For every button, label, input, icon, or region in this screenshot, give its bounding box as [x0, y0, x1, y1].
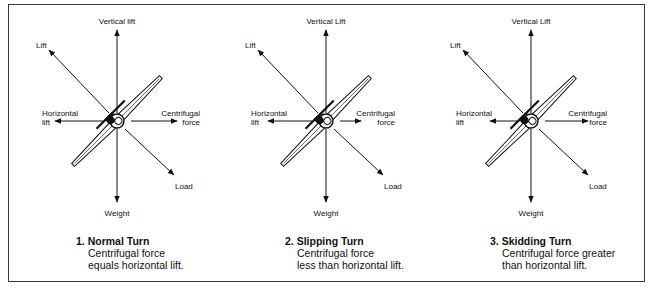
lift-arrow — [49, 50, 109, 113]
turn-forces-diagram: Vertical liftLiftHorizontalliftCentrifug… — [0, 0, 653, 292]
airplane-icon — [275, 70, 375, 170]
caption-line-1: Centrifugal force greater — [502, 247, 616, 259]
caption-line-2: than horizontal lift. — [502, 259, 587, 271]
panel-slipping: Vertical LiftLiftHorizontalliftCentrifug… — [245, 17, 404, 271]
horizontal-lift-label-line2: lift — [42, 118, 51, 127]
load-arrow — [539, 129, 588, 175]
lift-label: Lift — [36, 41, 47, 50]
panel-normal: Vertical liftLiftHorizontalliftCentrifug… — [36, 17, 201, 271]
vertical-lift-label: Vertical Lift — [306, 17, 346, 26]
caption-line-1: Centrifugal force — [88, 247, 165, 259]
load-label: Load — [175, 182, 193, 191]
lift-label: Lift — [245, 41, 256, 50]
load-label: Load — [589, 182, 607, 191]
caption-title: 3. Skidding Turn — [490, 235, 572, 247]
weight-label: Weight — [314, 209, 340, 218]
weight-label: Weight — [519, 209, 545, 218]
centrifugal-force-label-line2: force — [377, 118, 395, 127]
load-label: Load — [384, 182, 402, 191]
lift-label: Lift — [450, 41, 461, 50]
centrifugal-force-label-line2: force — [182, 118, 200, 127]
vertical-lift-label: Vertical lift — [99, 17, 136, 26]
caption-title: 1. Normal Turn — [76, 235, 149, 247]
panel-skidding: Vertical LiftLiftHorizontalliftCentrifug… — [450, 17, 616, 271]
horizontal-lift-label-line2: lift — [456, 118, 465, 127]
horizontal-lift-label-line2: lift — [251, 118, 260, 127]
centrifugal-force-label: Centrifugal — [568, 109, 607, 118]
centrifugal-force-label: Centrifugal — [356, 109, 395, 118]
load-arrow — [125, 129, 174, 175]
horizontal-lift-label: Horizontal — [251, 109, 287, 118]
caption-title: 2. Slipping Turn — [285, 235, 364, 247]
vertical-lift-label: Vertical Lift — [511, 17, 551, 26]
airplane-icon — [480, 70, 580, 170]
weight-label: Weight — [105, 209, 131, 218]
horizontal-lift-label: Horizontal — [42, 109, 78, 118]
lift-arrow — [463, 50, 523, 113]
horizontal-lift-label: Horizontal — [456, 109, 492, 118]
centrifugal-force-label: Centrifugal — [161, 109, 200, 118]
centrifugal-force-label-line2: force — [589, 118, 607, 127]
lift-arrow — [258, 50, 318, 113]
caption-line-1: Centrifugal force — [297, 247, 374, 259]
load-arrow — [334, 129, 383, 175]
caption-line-2: less than horizontal lift. — [297, 259, 404, 271]
airplane-icon — [66, 70, 166, 170]
caption-line-2: equals horizontal lift. — [88, 259, 184, 271]
